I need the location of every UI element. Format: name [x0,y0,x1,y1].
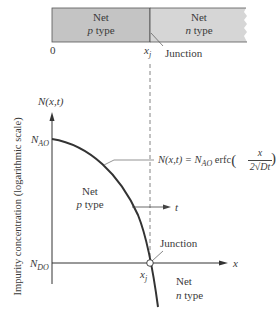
top-p-line2: p type [52,24,150,37]
ndo-sub: DO [37,263,49,272]
top-xj-sub: j [149,50,151,59]
top-p-region-label: Net p type [52,11,150,37]
equation-numerator: x [248,147,272,159]
plot-n-line2: n type [176,288,216,302]
plot-p-line1: Net [70,185,110,198]
plot-junction-label: Junction [160,237,197,249]
x-axis-arrow-icon [219,261,228,266]
y-axis-title: N(x,t) [38,95,63,107]
top-p-type: type [93,24,115,36]
plot-xj-label: xj [140,268,147,285]
plot-n-type: type [182,289,204,301]
equation-paren-open: ( [231,152,236,168]
plot-p-line2: p type [70,198,110,211]
plot-p-type: type [82,198,104,210]
t-arrow-head-icon [163,205,171,210]
plot-xj-sub: j [145,274,147,283]
x-axis-label: x [233,257,238,269]
origin-label: 0 [50,44,56,56]
equation-left: N(x,t) = N [158,154,202,165]
ndo-label: NDO [30,257,49,274]
y-axis-arrow-icon [50,112,55,121]
top-n-line2: n type [150,24,248,37]
equation-leader [104,160,154,165]
plot-p-region-label: Net p type [70,185,110,211]
equation-erfc: erfc [212,154,231,165]
plot-n-line1: Net [176,274,216,288]
equation-paren-close: ) [271,152,276,164]
junction-point [147,260,154,267]
equation-denominator: 2√Dt [248,160,272,173]
plot-n-region-label: Net n type [176,274,216,302]
top-n-type: type [191,24,213,36]
top-xj-label: xj [144,44,151,61]
nao-sub: AO [38,139,49,148]
top-n-line1: Net [150,11,248,24]
equation-sub: AO [202,159,213,168]
top-n-region-label: Net n type [150,11,248,37]
top-p-line1: Net [52,11,150,24]
junction-leader-bottom [152,251,163,261]
equation-fraction: x 2√Dt [248,147,272,173]
erfc-equation: N(x,t) = NAO erfc( [158,154,236,170]
y-axis-side-label: Impurity concentration (logarithmic scal… [12,126,23,296]
top-junction-label: Junction [165,47,202,59]
t-label: t [175,201,178,213]
nao-label: NAO [31,133,49,150]
